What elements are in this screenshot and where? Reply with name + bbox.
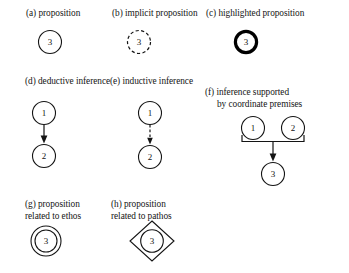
- node-label-e1: 1: [148, 108, 153, 118]
- node-label-d1: 1: [42, 108, 47, 118]
- figure-canvas: (a) proposition 3 (b) implicit propositi…: [0, 0, 349, 273]
- inference-arrow-head: [147, 138, 153, 145]
- node-label-g: 3: [44, 236, 49, 246]
- node-label-a: 3: [48, 37, 53, 47]
- glyph-a-proposition: 3: [26, 27, 76, 57]
- node-label-f2: 2: [291, 123, 296, 133]
- glyph-h-pathos-proposition: 3: [126, 219, 184, 265]
- glyph-d-deductive-inference: 1 2: [26, 99, 82, 171]
- glyph-f-coordinate-premises: 1 2 3: [233, 113, 325, 193]
- node-label-h: 3: [150, 236, 155, 246]
- caption-b: (b) implicit proposition: [112, 8, 198, 19]
- inference-arrow-head: [270, 154, 277, 162]
- caption-f-line2: by coordinate premises: [205, 99, 302, 110]
- node-label-d2: 2: [42, 151, 47, 161]
- node-label-f1: 1: [251, 123, 256, 133]
- glyph-g-ethos-proposition: 3: [26, 223, 80, 261]
- node-label-f3: 3: [271, 169, 276, 179]
- node-label-e2: 2: [148, 152, 153, 162]
- inference-arrow-head: [41, 136, 48, 144]
- glyph-b-implicit-proposition: 3: [116, 27, 166, 57]
- caption-c: (c) highlighted proposition: [206, 8, 304, 19]
- caption-e: (e) inductive inference: [110, 76, 193, 87]
- caption-g-line2: related to ethos: [25, 211, 81, 222]
- caption-h-line1: (h) proposition: [111, 199, 166, 209]
- glyph-e-inductive-inference: 1 2: [132, 99, 188, 173]
- glyph-c-highlighted-proposition: 3: [222, 27, 272, 57]
- caption-g-line1: (g) proposition: [25, 199, 80, 209]
- caption-f-line1: (f) inference supported: [205, 87, 289, 97]
- caption-a: (a) proposition: [26, 8, 80, 19]
- node-label-c: 3: [244, 37, 249, 47]
- node-label-b: 3: [137, 37, 142, 47]
- caption-d: (d) deductive inference: [25, 76, 110, 87]
